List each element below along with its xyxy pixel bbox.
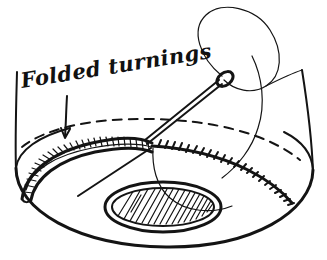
leader-line [65, 96, 67, 136]
stitch-row [152, 140, 294, 205]
base-bottom-curve [16, 168, 313, 247]
stitch-marks [158, 140, 294, 205]
thread-loop-tail-right [266, 70, 302, 86]
needle-shaft-lower [147, 84, 222, 144]
thread-right-descending [222, 56, 262, 178]
needle [145, 69, 236, 144]
folded-turnings-annotation: Folded turnings [18, 38, 213, 138]
needle-shaft-upper [145, 80, 219, 140]
folded-turnings-diagram: Folded turnings [0, 0, 327, 260]
folded-turnings-label: Folded turnings [18, 38, 213, 93]
rim-stitch-baseline [152, 146, 292, 203]
left-fabric-edge [16, 72, 17, 170]
right-fabric-edge [302, 70, 313, 172]
thread-tail [78, 148, 151, 196]
illustration-root: Folded turnings [0, 0, 327, 260]
